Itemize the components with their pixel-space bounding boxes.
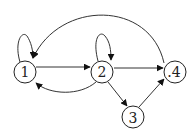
edge-3-4 (139, 79, 164, 107)
edge-4-1-arc (33, 15, 164, 63)
edge-1-1-self-loop (18, 34, 33, 62)
node-2: 2 (91, 61, 113, 83)
node-1: 1 (14, 61, 36, 83)
graph-diagram: 1 2 3 .4 (0, 0, 192, 138)
node-4-label: .4 (167, 64, 180, 80)
edge-2-2-self-loop (96, 34, 111, 61)
node-1-label: 1 (21, 64, 30, 80)
node-4: .4 (164, 61, 186, 83)
edge-2-1-curved (36, 82, 96, 92)
node-2-label: 2 (98, 64, 107, 80)
node-3-label: 3 (129, 110, 138, 126)
edge-2-3 (108, 82, 127, 106)
node-3: 3 (122, 106, 144, 128)
